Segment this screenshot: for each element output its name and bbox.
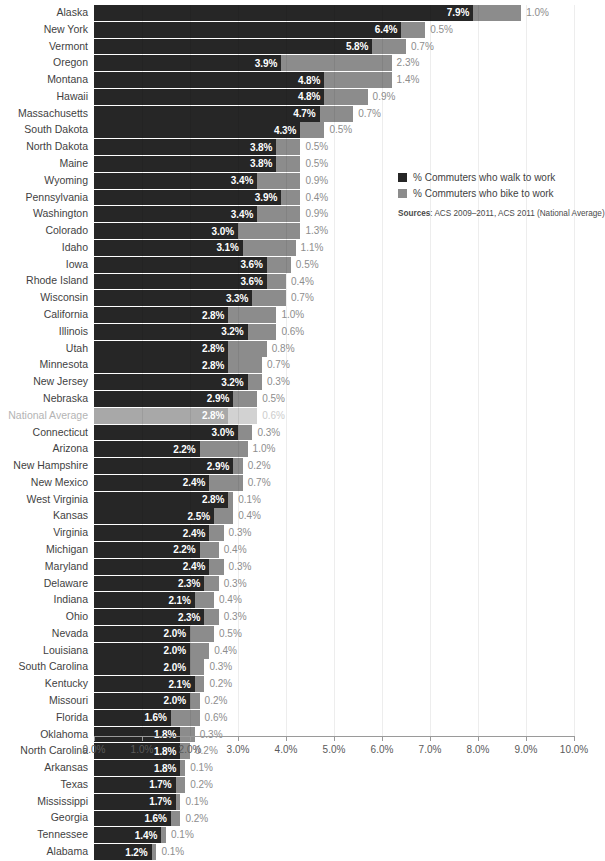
- bike-value-label: 0.5%: [257, 391, 285, 407]
- walk-value-label: 2.2%: [173, 444, 199, 455]
- bar-segment-bike: 0.1%: [176, 794, 181, 810]
- bar-segment-walk: 3.3%: [94, 290, 252, 306]
- stacked-bar: 5.8%0.7%: [94, 39, 406, 55]
- category-label: Massachusetts: [0, 106, 88, 122]
- bar-segment-bike: 0.5%: [233, 391, 257, 407]
- category-label: Maryland: [0, 559, 88, 575]
- bar-segment-bike: 0.5%: [300, 122, 324, 138]
- stacked-bar: 3.0%0.3%: [94, 425, 252, 441]
- bike-value-label: 0.5%: [300, 156, 328, 172]
- bar-segment-walk: 2.8%: [94, 492, 228, 508]
- bar-segment-bike: 0.3%: [180, 727, 194, 743]
- bar-segment-bike: 0.2%: [190, 693, 200, 709]
- gridline: [382, 5, 383, 736]
- category-label: Mississippi: [0, 794, 88, 810]
- category-label: Rhode Island: [0, 273, 88, 289]
- stacked-bar: 3.8%0.5%: [94, 156, 300, 172]
- bar-segment-bike: 0.7%: [252, 290, 286, 306]
- bar-segment-walk: 2.4%: [94, 559, 209, 575]
- chart-row: Kentucky2.1%0.2%: [0, 676, 592, 692]
- bar-segment-bike: 0.5%: [267, 257, 291, 273]
- stacked-bar: 1.2%0.1%: [94, 844, 156, 860]
- chart-row: West Virginia2.8%0.1%: [0, 492, 592, 508]
- category-label: Oklahoma: [0, 727, 88, 743]
- category-label: Alaska: [0, 5, 88, 21]
- walk-value-label: 2.3%: [178, 612, 204, 623]
- walk-value-label: 3.2%: [221, 326, 247, 337]
- bar-segment-bike: 0.4%: [267, 274, 286, 290]
- chart-row: Montana4.8%1.4%: [0, 72, 592, 88]
- bar-segment-bike: 0.3%: [209, 525, 223, 541]
- bar-segment-bike: 0.1%: [180, 760, 185, 776]
- axis-tick: [238, 736, 239, 741]
- chart-row: Tennessee1.4%0.1%: [0, 827, 592, 843]
- bar-segment-bike: 0.4%: [200, 542, 219, 558]
- category-label: Maine: [0, 156, 88, 172]
- bike-value-label: 0.6%: [200, 710, 228, 726]
- bar-segment-bike: 1.0%: [228, 307, 276, 323]
- bike-value-label: 0.3%: [219, 609, 247, 625]
- bar-segment-bike: 0.6%: [248, 324, 277, 340]
- chart-row: Delaware2.3%0.3%: [0, 576, 592, 592]
- bar-segment-bike: 0.7%: [372, 39, 406, 55]
- gridline: [190, 5, 191, 736]
- bike-value-label: 0.3%: [252, 425, 280, 441]
- bar-segment-bike: 0.5%: [401, 22, 425, 38]
- category-label: South Carolina: [0, 659, 88, 675]
- axis-tick: [286, 736, 287, 741]
- bar-segment-bike: 0.1%: [161, 827, 166, 843]
- chart-row: Virginia2.4%0.3%: [0, 525, 592, 541]
- bar-segment-walk: 5.8%: [94, 39, 372, 55]
- bike-value-label: 0.6%: [276, 324, 304, 340]
- axis-tick: [478, 736, 479, 741]
- category-label: Ohio: [0, 609, 88, 625]
- axis-tick-label: 2.0%: [179, 744, 202, 755]
- bar-segment-bike: 0.3%: [204, 609, 218, 625]
- category-label: Kentucky: [0, 676, 88, 692]
- bike-value-label: 0.7%: [286, 290, 314, 306]
- axis-tick-label: 7.0%: [419, 744, 442, 755]
- bar-segment-walk: 1.7%: [94, 794, 176, 810]
- bar-segment-walk: 4.8%: [94, 72, 324, 88]
- bar-segment-walk: 2.8%: [94, 341, 228, 357]
- bar-segment-bike: 1.0%: [200, 441, 248, 457]
- category-label: New Hampshire: [0, 458, 88, 474]
- walk-value-label: 3.6%: [240, 276, 266, 287]
- category-label: Kansas: [0, 508, 88, 524]
- walk-value-label: 3.6%: [240, 259, 266, 270]
- bike-value-label: 0.2%: [200, 693, 228, 709]
- gridline: [526, 5, 527, 736]
- walk-value-label: 3.9%: [255, 58, 281, 69]
- stacked-bar: 2.1%0.4%: [94, 592, 214, 608]
- bar-segment-bike: 0.5%: [276, 156, 300, 172]
- axis-tick: [334, 736, 335, 741]
- axis-tick: [190, 736, 191, 741]
- stacked-bar: 1.6%0.2%: [94, 811, 180, 827]
- axis-tick-label: 3.0%: [227, 744, 250, 755]
- chart-row: New York6.4%0.5%: [0, 22, 592, 38]
- chart-row: Ohio2.3%0.3%: [0, 609, 592, 625]
- bike-value-label: 0.2%: [180, 811, 208, 827]
- walk-value-label: 1.7%: [149, 779, 175, 790]
- chart-row: Hawaii4.8%0.9%: [0, 89, 592, 105]
- chart-rows: Alaska7.9%1.0%New York6.4%0.5%Vermont5.8…: [0, 5, 592, 861]
- bar-segment-walk: 3.6%: [94, 257, 267, 273]
- stacked-bar: 3.4%0.9%: [94, 206, 300, 222]
- bar-segment-bike: 0.8%: [228, 341, 266, 357]
- walk-value-label: 3.4%: [231, 209, 257, 220]
- bar-segment-walk: 2.8%: [94, 307, 228, 323]
- stacked-bar: 4.8%1.4%: [94, 72, 392, 88]
- sources-text: : ACS 2009–2011, ACS 2011 (National Aver…: [430, 209, 604, 218]
- bar-segment-bike: 0.2%: [176, 777, 186, 793]
- bike-value-label: 0.5%: [324, 122, 352, 138]
- stacked-bar: 2.0%0.5%: [94, 626, 214, 642]
- stacked-bar: 2.0%0.2%: [94, 693, 200, 709]
- bar-segment-walk: 2.1%: [94, 676, 195, 692]
- category-label: North Dakota: [0, 139, 88, 155]
- bar-segment-walk: 2.9%: [94, 458, 233, 474]
- category-label: Washington: [0, 206, 88, 222]
- chart-legend: % Commuters who walk to work% Commuters …: [398, 172, 588, 204]
- walk-value-label: 2.4%: [183, 528, 209, 539]
- bike-value-label: 1.1%: [296, 240, 324, 256]
